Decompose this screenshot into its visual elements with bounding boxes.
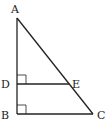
label-e: E <box>72 78 80 91</box>
label-b: B <box>1 109 9 122</box>
triangle-diagram: A D E B C <box>0 0 106 125</box>
right-angle-mark-b <box>17 105 26 114</box>
label-d: D <box>1 78 10 91</box>
label-c: C <box>97 109 105 122</box>
right-angle-mark-d <box>17 75 26 84</box>
label-a: A <box>10 3 20 16</box>
segment-ac <box>17 18 93 114</box>
